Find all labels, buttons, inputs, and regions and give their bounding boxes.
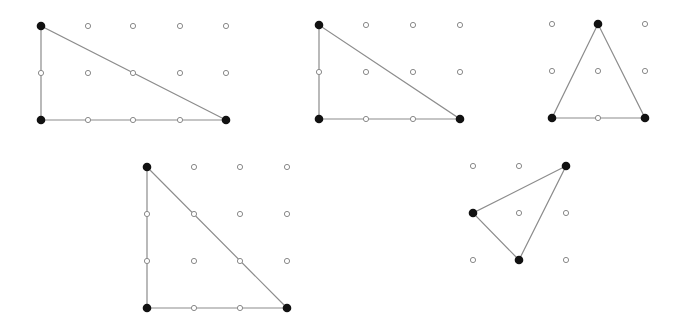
grid-peg xyxy=(284,258,289,263)
grid-peg xyxy=(563,257,568,262)
triangle-vertex xyxy=(469,209,478,218)
grid-peg xyxy=(642,21,647,26)
grid-peg xyxy=(595,115,600,120)
triangle-vertex xyxy=(283,304,292,313)
grid-peg xyxy=(130,23,135,28)
grid-peg xyxy=(237,258,242,263)
triangle-vertex xyxy=(515,256,524,265)
triangle-vertex xyxy=(37,116,46,125)
grid-peg xyxy=(457,22,462,27)
grid-peg xyxy=(595,68,600,73)
grid-peg xyxy=(191,164,196,169)
figure-1 xyxy=(37,22,231,125)
grid-peg xyxy=(410,22,415,27)
triangle-vertex xyxy=(641,114,650,123)
triangle-vertex xyxy=(315,21,324,30)
grid-peg xyxy=(191,211,196,216)
grid-peg xyxy=(223,70,228,75)
grid-peg xyxy=(237,164,242,169)
grid-peg xyxy=(363,116,368,121)
triangle-vertex xyxy=(143,163,152,172)
grid-peg xyxy=(410,116,415,121)
grid-peg xyxy=(410,69,415,74)
geoboard-diagram xyxy=(0,0,683,332)
figure-4 xyxy=(143,163,292,313)
triangle-outline xyxy=(319,25,460,119)
grid-peg xyxy=(237,305,242,310)
triangle-vertex xyxy=(594,20,603,29)
grid-peg xyxy=(177,117,182,122)
grid-peg xyxy=(516,210,521,215)
triangle-vertex xyxy=(548,114,557,123)
figure-3 xyxy=(548,20,650,123)
grid-peg xyxy=(177,23,182,28)
triangle-vertex xyxy=(456,115,465,124)
triangle-vertex xyxy=(37,22,46,31)
grid-peg xyxy=(457,69,462,74)
triangle-vertex xyxy=(143,304,152,313)
grid-peg xyxy=(237,211,242,216)
grid-peg xyxy=(177,70,182,75)
triangle-vertex xyxy=(315,115,324,124)
grid-peg xyxy=(642,68,647,73)
figure-2 xyxy=(315,21,465,124)
grid-peg xyxy=(549,68,554,73)
grid-peg xyxy=(516,163,521,168)
grid-peg xyxy=(563,210,568,215)
triangle-outline xyxy=(147,167,287,308)
grid-peg xyxy=(316,69,321,74)
grid-peg xyxy=(144,258,149,263)
grid-peg xyxy=(85,117,90,122)
grid-peg xyxy=(85,23,90,28)
grid-peg xyxy=(130,70,135,75)
triangle-vertex xyxy=(222,116,231,125)
grid-peg xyxy=(363,69,368,74)
figure-5 xyxy=(469,162,571,265)
grid-peg xyxy=(38,70,43,75)
grid-peg xyxy=(191,305,196,310)
triangle-vertex xyxy=(562,162,571,171)
grid-peg xyxy=(144,211,149,216)
grid-peg xyxy=(284,164,289,169)
grid-peg xyxy=(363,22,368,27)
grid-peg xyxy=(85,70,90,75)
grid-peg xyxy=(549,21,554,26)
grid-peg xyxy=(284,211,289,216)
grid-peg xyxy=(470,163,475,168)
grid-peg xyxy=(223,23,228,28)
grid-peg xyxy=(191,258,196,263)
grid-peg xyxy=(470,257,475,262)
grid-peg xyxy=(130,117,135,122)
